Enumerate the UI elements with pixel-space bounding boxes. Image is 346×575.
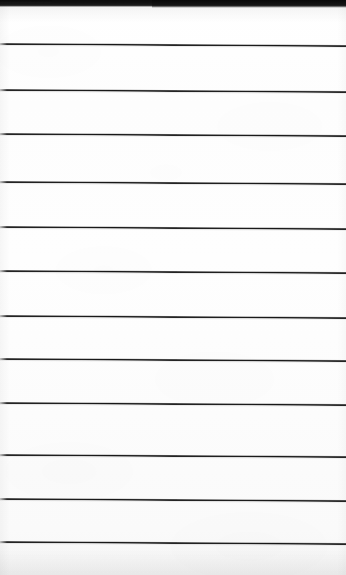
rule-line [0, 43, 346, 47]
rule-line [0, 358, 346, 362]
rule-line [0, 454, 346, 458]
rule-line [0, 541, 346, 545]
rule-line [0, 315, 346, 319]
rule-line [0, 226, 346, 230]
ruled-lines-layer [0, 0, 346, 575]
rule-line [0, 498, 346, 502]
rule-line [0, 89, 346, 93]
scanned-notepad-page [0, 0, 346, 575]
rule-line [0, 402, 346, 406]
rule-line [0, 181, 346, 185]
rule-line [0, 270, 346, 274]
rule-line [0, 133, 346, 137]
